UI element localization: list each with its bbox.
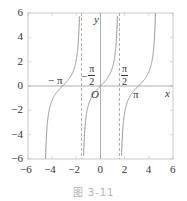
tan-branch [46,16,80,159]
neg-half-pi-label: − π 2 [81,64,95,87]
x-tick-label: 6 [170,164,176,175]
y-tick-label: 6 [18,7,24,18]
frac-denominator: 2 [122,76,127,87]
frac-numerator: π [88,64,95,76]
minus-sign: − [81,70,87,82]
y-tick-label: −2 [11,104,23,115]
x-tick-label: −6 [20,164,32,175]
x-axis-label: x [165,88,170,99]
x-tick-label: 2 [122,164,128,175]
y-tick-label: −4 [11,129,23,140]
neg-pi-label: − π [48,75,63,86]
y-tick-label: 2 [18,56,24,67]
frac-numerator: π [121,64,128,76]
figure-caption: 图 3-11 [0,184,187,199]
half-pi-label: π 2 [121,64,128,87]
x-tick-label: 4 [146,164,152,175]
origin-label: O [91,89,99,100]
y-tick-label: 0 [18,80,24,91]
pi-label: π [133,89,139,100]
x-tick-label: −4 [44,164,56,175]
frac-denominator: 2 [89,76,94,87]
x-tick-label: 0 [98,164,104,175]
x-tick-label: −2 [68,164,80,175]
y-tick-label: 4 [18,31,24,42]
y-axis-label: y [94,14,99,25]
